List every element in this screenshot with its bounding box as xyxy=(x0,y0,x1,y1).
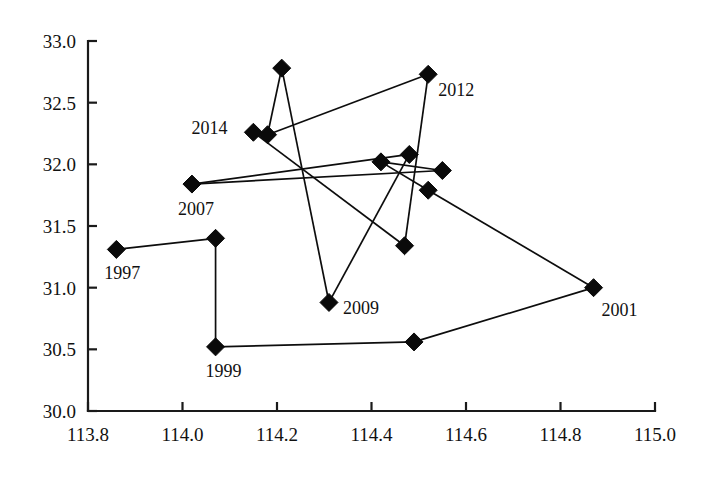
y-axis-tick-label: 32.0 xyxy=(43,154,76,175)
y-axis-tick-label: 30.5 xyxy=(43,339,76,360)
x-axis-tick-label: 114.2 xyxy=(256,424,298,445)
x-axis-tick-label: 114.6 xyxy=(445,424,487,445)
x-axis-tick-label: 114.0 xyxy=(161,424,203,445)
data-point-label: 2014 xyxy=(191,118,227,138)
chart-background xyxy=(0,0,717,487)
data-point-label: 1999 xyxy=(206,361,242,381)
x-axis-tick-label: 113.8 xyxy=(67,424,109,445)
x-axis-tick-label: 114.4 xyxy=(350,424,393,445)
data-point-label: 2012 xyxy=(438,80,474,100)
scatter-chart: 113.8114.0114.2114.4114.6114.8115.0 30.0… xyxy=(0,0,717,487)
chart-canvas: 113.8114.0114.2114.4114.6114.8115.0 30.0… xyxy=(0,0,717,487)
data-point-label: 1997 xyxy=(104,263,140,283)
y-axis-tick-label: 33.0 xyxy=(43,31,76,52)
y-axis-tick-label: 31.5 xyxy=(43,216,76,237)
y-axis-tick-label: 31.0 xyxy=(43,278,76,299)
y-axis-tick-label: 32.5 xyxy=(43,93,76,114)
data-point-label: 2007 xyxy=(178,199,214,219)
data-point-label: 2009 xyxy=(343,298,379,318)
x-axis-tick-label: 115.0 xyxy=(634,424,676,445)
data-point-label: 2001 xyxy=(602,300,638,320)
y-axis-tick-label: 30.0 xyxy=(43,401,76,422)
x-axis-tick-label: 114.8 xyxy=(539,424,581,445)
